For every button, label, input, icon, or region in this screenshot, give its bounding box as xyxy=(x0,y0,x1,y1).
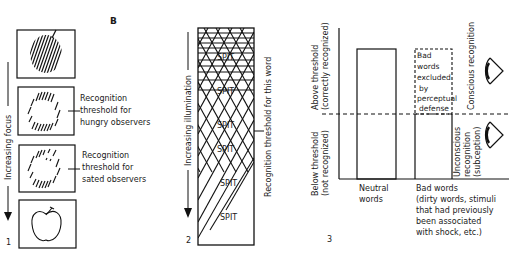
panel-number-3: 3 xyxy=(327,235,332,244)
svg-text:SPIT: SPIT xyxy=(217,145,234,154)
perception-diagram: B Recognition xyxy=(0,0,509,253)
word-threshold-label: Recognition threshold for this word xyxy=(264,57,273,197)
x-label-neutral: Neutral words xyxy=(359,184,391,204)
panel-2: SPIT SPIT SPIT SPIT SPIT SPIT Recognitio… xyxy=(120,28,320,245)
blurred-image-2 xyxy=(28,92,60,131)
svg-text:SPIT: SPIT xyxy=(217,87,234,96)
focus-axis-label: Increasing focus xyxy=(4,115,13,180)
defense-box-label: Bad words excluded by perceptual defense xyxy=(417,51,460,113)
unconscious-recognition-label: Unconscious recognition (subception) xyxy=(453,124,482,177)
x-label-bad-words: Bad words (dirty words, stimuli that had… xyxy=(416,184,498,237)
illumination-axis-label: Increasing illumination xyxy=(184,75,193,166)
below-threshold-label: Below threshold (not recognized) xyxy=(311,129,330,196)
above-threshold-label: Above threshold (correctly recognized) xyxy=(311,22,330,110)
focus-frame-3 xyxy=(19,145,75,192)
panel-number-2: 2 xyxy=(186,236,191,245)
figure-letter: B xyxy=(110,16,117,26)
svg-text:SPIT: SPIT xyxy=(217,121,234,130)
arrow-down-icon xyxy=(184,208,192,218)
arrow-down-icon xyxy=(4,212,12,221)
blurred-image-1 xyxy=(23,34,67,74)
svg-text:SPIT: SPIT xyxy=(220,213,237,222)
neutral-words-bar xyxy=(357,49,396,179)
eye-icon-conscious xyxy=(486,58,504,84)
apple-icon xyxy=(32,207,61,241)
blurred-image-3 xyxy=(28,149,60,188)
eye-icon-unconscious xyxy=(486,122,504,148)
threshold-label-hungry: Recognition threshold for hungry observe… xyxy=(80,94,150,127)
focus-frame-1 xyxy=(17,30,75,78)
panel-3: Bad words excluded by perceptual defense… xyxy=(311,22,509,244)
threshold-label-sated: Recognition threshold for sated observer… xyxy=(82,151,146,184)
svg-text:SPIT: SPIT xyxy=(217,53,234,62)
panel-number-1: 1 xyxy=(6,238,11,247)
focus-frame-2 xyxy=(18,87,74,135)
svg-text:SPIT: SPIT xyxy=(220,179,237,188)
conscious-recognition-label: Conscious recognition xyxy=(467,22,476,110)
panel-1: Recognition threshold for hungry observe… xyxy=(4,30,150,248)
